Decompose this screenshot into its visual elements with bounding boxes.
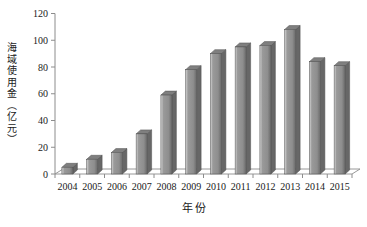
bar-2005: [87, 159, 98, 174]
x-tick-label-2005: 2005: [82, 181, 102, 192]
x-tick-label-2010: 2010: [206, 181, 226, 192]
bar-side-2010: [221, 50, 226, 174]
y-tick-label-80: 80: [38, 62, 48, 73]
bar-2007: [136, 134, 147, 174]
x-tick-label-2006: 2006: [107, 181, 127, 192]
y-axis-title: 海域使用金（亿元）: [3, 13, 18, 174]
x-tick-label-2004: 2004: [57, 181, 77, 192]
bar-side-2012: [271, 42, 276, 174]
bar-side-2007: [147, 130, 152, 174]
y-tick-label-100: 100: [33, 35, 48, 46]
x-tick-label-2009: 2009: [181, 181, 201, 192]
bar-2012: [260, 46, 271, 174]
x-tick-label-2014: 2014: [305, 181, 325, 192]
bar-2014: [309, 62, 320, 174]
y-tick-label-60: 60: [38, 88, 48, 99]
bar-side-2008: [172, 91, 177, 174]
bar-2004: [62, 167, 73, 174]
bar-2015: [334, 66, 345, 174]
x-tick-label-2007: 2007: [132, 181, 152, 192]
x-tick-label-2013: 2013: [280, 181, 300, 192]
y-tick-label-120: 120: [33, 8, 48, 19]
x-tick-label-2015: 2015: [330, 181, 350, 192]
bar-2010: [210, 54, 221, 174]
x-tick-label-2011: 2011: [231, 181, 251, 192]
x-tick-label-2012: 2012: [255, 181, 275, 192]
y-tick-label-0: 0: [43, 169, 48, 180]
bar-2011: [235, 47, 246, 174]
bar-side-2013: [296, 26, 301, 174]
y-tick-label-20: 20: [38, 142, 48, 153]
bar-side-2006: [122, 149, 127, 174]
x-tick-label-2008: 2008: [156, 181, 176, 192]
bar-2013: [285, 30, 296, 174]
bar-side-2014: [320, 58, 325, 174]
bar-side-2011: [246, 43, 251, 174]
bar-2008: [161, 95, 172, 174]
bar-2006: [111, 153, 122, 174]
bar-chart-figure: 0204060801001202004200520062007200820092…: [0, 0, 367, 227]
chart-canvas: 0204060801001202004200520062007200820092…: [0, 0, 367, 227]
x-axis-title: 年份: [40, 199, 350, 215]
y-tick-label-40: 40: [38, 115, 48, 126]
bar-side-2009: [197, 66, 202, 174]
bar-side-2015: [345, 62, 350, 174]
bar-2009: [186, 70, 197, 174]
